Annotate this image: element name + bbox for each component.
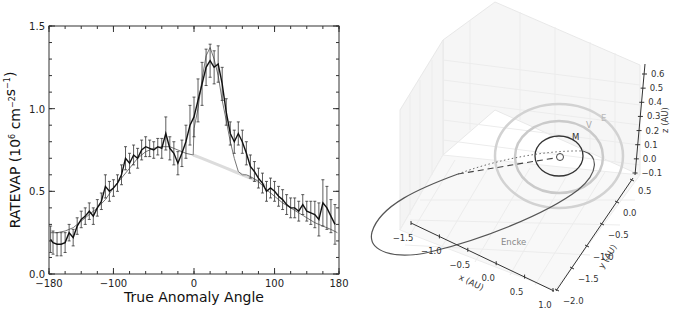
z-tick-label: 0.3 [647, 111, 661, 121]
y-tick-label: 0.5 [638, 186, 652, 196]
x-tick-label: −1.5 [393, 233, 414, 243]
y-tick-label: −1.5 [578, 274, 599, 284]
z-tick-label: 0.1 [644, 140, 658, 150]
label-mercury: M [572, 132, 579, 142]
x-tick-label: 180 [329, 278, 348, 289]
z-tick-label: 0.4 [648, 97, 662, 107]
y-tick-label: 0.0 [29, 269, 45, 280]
z-tick-label: 0.2 [646, 126, 660, 136]
figure: −180−10001001800.00.51.01.5 True Anomaly… [0, 0, 685, 323]
y-axis-title: RATEVAP (106 cm−2s−1) [2, 72, 23, 229]
y-tick-label: −0.5 [608, 230, 629, 240]
x-tick-label: 0.5 [510, 287, 524, 297]
z-tick-label: 0.5 [650, 83, 664, 93]
z-tick-label: 0.0 [643, 154, 657, 164]
x-axis-title: True Anomaly Angle [123, 289, 264, 305]
plot-frame [49, 26, 339, 274]
y-tick-label: 0.0 [623, 208, 637, 218]
z-tick-label: 0.6 [651, 69, 665, 79]
x-tick-label: 1.0 [538, 300, 552, 310]
y-tick-label: 0.5 [29, 186, 45, 197]
orbit-3d-plot: M V E Encke −0.10.00.10.20.30.40.50.6 z … [371, 2, 670, 310]
label-earth: E [601, 113, 606, 123]
x-tick-label: −100 [100, 278, 127, 289]
y-axis-title-main: RATEVAP (10 [7, 139, 23, 228]
y-tick-label: 1.0 [29, 104, 45, 115]
y-tick-label: −2.0 [563, 296, 584, 306]
x-tick-label: −1.0 [421, 246, 442, 256]
z-axis-title: z (AU) [660, 107, 670, 133]
x-tick-label: −0.5 [449, 260, 470, 270]
label-encke: Encke [501, 237, 526, 247]
label-venus: V [586, 120, 592, 130]
x-tick-label: 100 [265, 278, 284, 289]
x-tick-label: 0 [191, 278, 197, 289]
y-tick-label: 1.5 [29, 21, 45, 32]
ratevap-plot: −180−10001001800.00.51.01.5 True Anomaly… [2, 21, 349, 305]
z-tick-label: −0.1 [642, 168, 663, 178]
